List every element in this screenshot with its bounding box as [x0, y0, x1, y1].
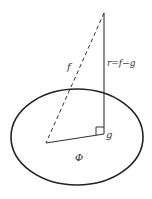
label-f: f [66, 61, 73, 72]
phi-ellipse [11, 89, 143, 185]
label-phi: Φ [75, 152, 83, 163]
diagram-canvas: f r=f−g g Φ [0, 0, 152, 199]
g-line [46, 134, 104, 143]
f-dashed-line [46, 13, 104, 143]
label-r: r=f−g [107, 58, 136, 68]
label-g: g [106, 129, 112, 140]
